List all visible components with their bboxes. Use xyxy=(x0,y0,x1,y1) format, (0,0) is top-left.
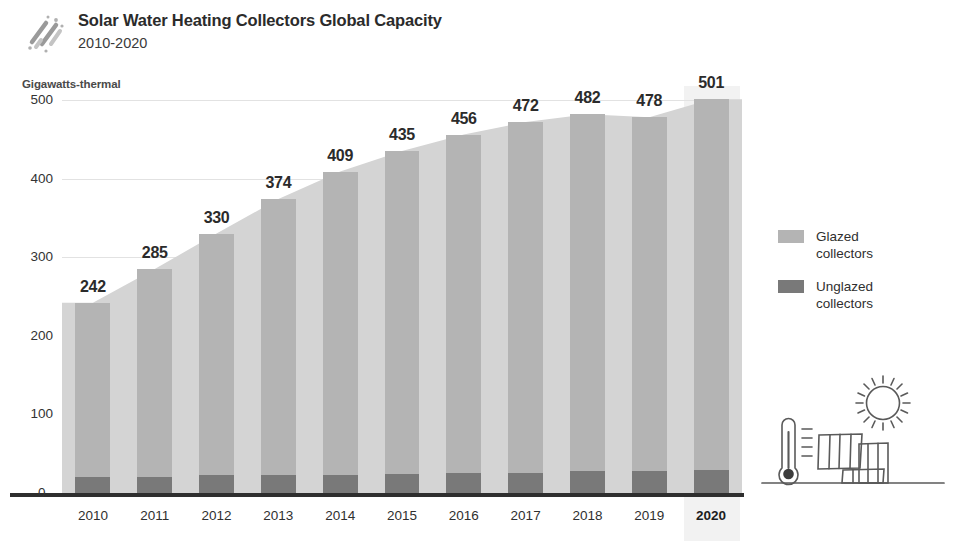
bar-segment-glazed xyxy=(632,117,667,493)
page-title: Solar Water Heating Collectors Global Ca… xyxy=(78,10,442,31)
y-tick-500: 500 xyxy=(30,93,53,107)
chart-page: Solar Water Heating Collectors Global Ca… xyxy=(0,0,962,549)
bar-value-label-2017: 472 xyxy=(513,97,539,115)
diagonal-strokes-logo xyxy=(22,10,68,56)
bar-2020[interactable]: 501 xyxy=(694,99,729,493)
bar-2018[interactable]: 482 xyxy=(570,114,605,493)
solar-illustration xyxy=(752,372,952,504)
x-axis-label-2016: 2016 xyxy=(449,508,479,523)
bar-value-label-2018: 482 xyxy=(575,89,601,107)
bar-segment-glazed xyxy=(694,99,729,493)
legend-swatch-glazed xyxy=(778,230,804,243)
thermometer-icon xyxy=(779,419,812,485)
bar-segment-unglazed xyxy=(694,470,729,493)
x-axis-label-2018: 2018 xyxy=(572,508,602,523)
x-axis-label-2020: 2020 xyxy=(696,508,726,523)
legend-label: Unglazed collectors xyxy=(816,278,873,312)
bar-value-label-2014: 409 xyxy=(327,147,353,165)
bar-value-label-2010: 242 xyxy=(80,278,106,296)
bar-segment-glazed xyxy=(508,122,543,493)
bar-segment-unglazed xyxy=(75,477,110,494)
bar-segment-glazed xyxy=(385,151,420,493)
bar-segment-glazed xyxy=(570,114,605,493)
bar-segment-unglazed xyxy=(570,471,605,493)
bar-value-label-2016: 456 xyxy=(451,110,477,128)
bar-2015[interactable]: 435 xyxy=(385,151,420,493)
page-subtitle: 2010-2020 xyxy=(78,33,442,53)
x-axis-label-2011: 2011 xyxy=(140,508,169,523)
solar-collector-panels-icon xyxy=(818,434,888,483)
legend-swatch-unglazed xyxy=(778,280,804,293)
y-tick-300: 300 xyxy=(30,250,53,264)
bar-value-label-2013: 374 xyxy=(265,174,291,192)
bar-value-label-2011: 285 xyxy=(142,244,168,262)
bar-segment-unglazed xyxy=(199,475,234,493)
x-axis-label-2019: 2019 xyxy=(634,508,664,523)
bar-segment-glazed xyxy=(261,199,296,493)
bar-2012[interactable]: 330 xyxy=(199,234,234,493)
y-tick-200: 200 xyxy=(30,329,53,343)
bar-segment-unglazed xyxy=(261,475,296,493)
legend-item-glazed[interactable]: Glazed collectors xyxy=(778,228,873,262)
x-axis-label-2010: 2010 xyxy=(78,508,108,523)
x-axis-label-2013: 2013 xyxy=(263,508,293,523)
bar-value-label-2019: 478 xyxy=(636,92,662,110)
bar-segment-unglazed xyxy=(508,473,543,493)
title-block: Solar Water Heating Collectors Global Ca… xyxy=(78,10,442,53)
bar-segment-glazed xyxy=(199,234,234,493)
y-tick-100: 100 xyxy=(30,408,53,422)
bar-value-label-2020: 501 xyxy=(698,74,724,92)
bar-2010[interactable]: 242 xyxy=(75,303,110,493)
y-tick-400: 400 xyxy=(30,172,53,186)
axis-baseline xyxy=(10,493,744,497)
sun-icon xyxy=(856,376,910,430)
chart-header: Solar Water Heating Collectors Global Ca… xyxy=(0,0,962,70)
legend-item-unglazed[interactable]: Unglazed collectors xyxy=(778,278,873,312)
bar-segment-unglazed xyxy=(323,475,358,493)
y-tick-zero: 0 xyxy=(38,486,46,500)
bar-segment-unglazed xyxy=(137,477,172,494)
bar-value-label-2015: 435 xyxy=(389,126,415,144)
bar-segment-glazed xyxy=(75,303,110,493)
chart-legend: Glazed collectorsUnglazed collectors xyxy=(778,228,873,328)
x-axis-label-2012: 2012 xyxy=(202,508,232,523)
x-axis-label-2015: 2015 xyxy=(387,508,417,523)
x-axis-label-2017: 2017 xyxy=(511,508,541,523)
bar-value-label-2012: 330 xyxy=(204,209,230,227)
bar-segment-glazed xyxy=(323,172,358,493)
chart-plot-area: 100200300400500 242285330374409435456472… xyxy=(62,100,742,500)
bar-2013[interactable]: 374 xyxy=(261,199,296,493)
bar-segment-glazed xyxy=(446,135,481,493)
bar-segment-unglazed xyxy=(385,474,420,493)
bar-segment-unglazed xyxy=(446,473,481,493)
bar-2017[interactable]: 472 xyxy=(508,122,543,493)
bar-2016[interactable]: 456 xyxy=(446,135,481,493)
x-axis-label-2014: 2014 xyxy=(325,508,355,523)
legend-label: Glazed collectors xyxy=(816,228,873,262)
bar-segment-glazed xyxy=(137,269,172,493)
bar-segment-unglazed xyxy=(632,471,667,493)
bar-2019[interactable]: 478 xyxy=(632,117,667,493)
bar-2014[interactable]: 409 xyxy=(323,172,358,493)
bar-2011[interactable]: 285 xyxy=(137,269,172,493)
